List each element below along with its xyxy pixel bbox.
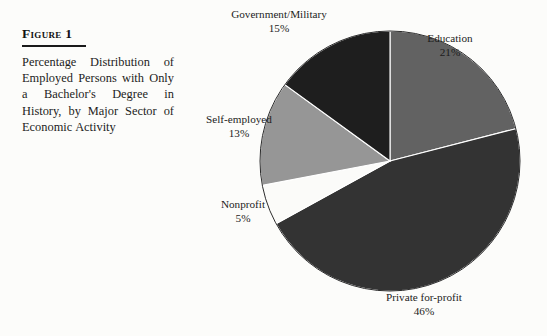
pie-label-government-military-name: Government/Military (211, 8, 347, 22)
pie-label-education-value: 21% (402, 46, 498, 60)
pie-label-self-employed-value: 13% (177, 127, 301, 141)
pie-label-nonprofit-value: 5% (193, 212, 293, 226)
pie-label-government-military: Government/Military 15% (211, 8, 347, 35)
pie-label-private-for-profit-value: 46% (354, 305, 494, 319)
pie-label-self-employed-name: Self-employed (177, 113, 301, 127)
pie-label-government-military-value: 15% (211, 22, 347, 36)
pie-label-private-for-profit: Private for-profit 46% (354, 291, 494, 318)
pie-label-self-employed: Self-employed 13% (177, 113, 301, 140)
figure-page: Figure 1 Percentage Distribution of Empl… (0, 0, 547, 336)
pie-label-nonprofit-name: Nonprofit (193, 198, 293, 212)
figure-label-underline (22, 45, 86, 47)
pie-chart: Government/Military 15% Education 21% Se… (180, 0, 547, 336)
pie-label-education: Education 21% (402, 32, 498, 59)
figure-caption-text: Percentage Distribution of Employed Pers… (22, 54, 174, 136)
pie-label-education-name: Education (402, 32, 498, 46)
figure-number-label: Figure 1 (22, 26, 72, 44)
figure-caption-block: Figure 1 Percentage Distribution of Empl… (22, 24, 174, 136)
pie-slice-group (260, 31, 520, 291)
pie-label-nonprofit: Nonprofit 5% (193, 198, 293, 225)
pie-label-private-for-profit-name: Private for-profit (354, 291, 494, 305)
